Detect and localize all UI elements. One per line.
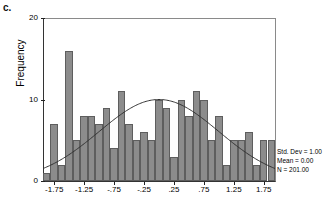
y-tick-label: 0 [16,177,38,185]
histogram-bar [80,116,87,181]
histogram-bar [170,157,177,181]
histogram-bar [268,140,275,181]
histogram-bar [208,140,215,181]
x-tick-label: -.25 [127,186,161,194]
x-tick-label: -1.75 [37,186,71,194]
histogram-bar [125,124,132,181]
histogram-bar [95,124,102,181]
x-tick-label: -1.25 [67,186,101,194]
x-tick-mark [144,182,145,185]
histogram-bar [163,108,170,181]
histogram-bar [148,140,155,181]
stat-std-dev: Std. Dev = 1.00 [277,147,324,156]
y-tick-mark [41,18,45,19]
histogram-bar [65,51,72,181]
histogram-bars [43,18,275,181]
histogram-bar [230,140,237,181]
histogram-bar [133,140,140,181]
x-tick-mark [264,182,265,185]
y-axis-label-wrap: Frequency [14,21,28,105]
histogram-bar [185,116,192,181]
histogram-bar [43,173,50,181]
histogram-bar [223,165,230,181]
histogram-bar [253,165,260,181]
y-axis-label: Frequency [14,21,28,105]
histogram-bar [215,116,222,181]
x-tick-label: .25 [157,186,191,194]
histogram-bar [178,100,185,182]
x-tick-label: -.75 [97,186,131,194]
histogram-bar [200,100,207,182]
x-tick-label: 1.25 [217,186,251,194]
histogram-figure: c. 01020 -1.75-1.25-.75-.25.25.751.251.7… [0,0,324,208]
histogram-bar [103,108,110,181]
x-tick-mark [174,182,175,185]
histogram-bar [260,140,267,181]
y-tick-mark [41,181,45,182]
x-tick-mark [234,182,235,185]
histogram-bar [245,132,252,181]
statistics-legend: Std. Dev = 1.00 Mean = 0.00 N = 201.00 [277,147,324,174]
histogram-bar [58,165,65,181]
stat-n: N = 201.00 [277,165,324,174]
x-tick-label: 1.75 [247,186,281,194]
x-tick-label: .75 [187,186,221,194]
x-tick-mark [204,182,205,185]
histogram-bar [50,124,57,181]
x-tick-mark [54,182,55,185]
x-tick-mark [84,182,85,185]
histogram-bar [238,140,245,181]
histogram-bar [118,91,125,181]
histogram-bar [155,100,162,182]
histogram-bar [88,116,95,181]
histogram-bar [193,91,200,181]
panel-label: c. [3,3,11,13]
histogram-bar [140,132,147,181]
histogram-bar [110,148,117,181]
x-tick-mark [114,182,115,185]
y-tick-mark [41,100,45,101]
stat-mean: Mean = 0.00 [277,156,324,165]
histogram-bar [73,140,80,181]
